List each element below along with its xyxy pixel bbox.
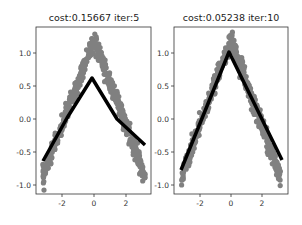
y-tick-label: 0.5 bbox=[157, 82, 169, 91]
y-tick-label: -1.0 bbox=[154, 181, 169, 190]
x-tick-label: 2 bbox=[260, 199, 265, 208]
x-tick-label: 0 bbox=[229, 199, 234, 208]
left-subplot: cost:0.15667 iter:5 1.0 0.5 0.0 -0.5 -1.… bbox=[16, 12, 151, 208]
x-tick-label: 2 bbox=[124, 199, 129, 208]
y-tick-label: 1.0 bbox=[19, 49, 31, 58]
right-y-axis: 1.0 0.5 0.0 -0.5 -1.0 bbox=[154, 49, 174, 190]
y-tick-label: 1.0 bbox=[157, 49, 169, 58]
left-scatter-points bbox=[40, 31, 147, 192]
left-plot-title: cost:0.15667 iter:5 bbox=[49, 12, 139, 23]
y-tick-label: 0.0 bbox=[157, 115, 169, 124]
y-tick-label: 0.0 bbox=[19, 115, 31, 124]
x-tick-label: 0 bbox=[92, 199, 97, 208]
y-tick-label: 0.5 bbox=[19, 82, 31, 91]
left-prediction-line bbox=[43, 78, 145, 161]
left-y-axis: 1.0 0.5 0.0 -0.5 -1.0 bbox=[16, 49, 36, 190]
right-plot-title: cost:0.05238 iter:10 bbox=[183, 12, 279, 23]
y-tick-label: -0.5 bbox=[154, 148, 169, 157]
y-tick-label: -0.5 bbox=[16, 148, 31, 157]
x-tick-label: -2 bbox=[196, 199, 204, 208]
x-tick-label: -2 bbox=[58, 199, 66, 208]
right-subplot: cost:0.05238 iter:10 1.0 0.5 0.0 -0.5 -1… bbox=[154, 12, 288, 208]
y-tick-label: -1.0 bbox=[16, 181, 31, 190]
right-x-axis: -2 0 2 bbox=[196, 194, 264, 208]
figure: cost:0.15667 iter:5 1.0 0.5 0.0 -0.5 -1.… bbox=[0, 0, 302, 225]
left-x-axis: -2 0 2 bbox=[58, 194, 128, 208]
